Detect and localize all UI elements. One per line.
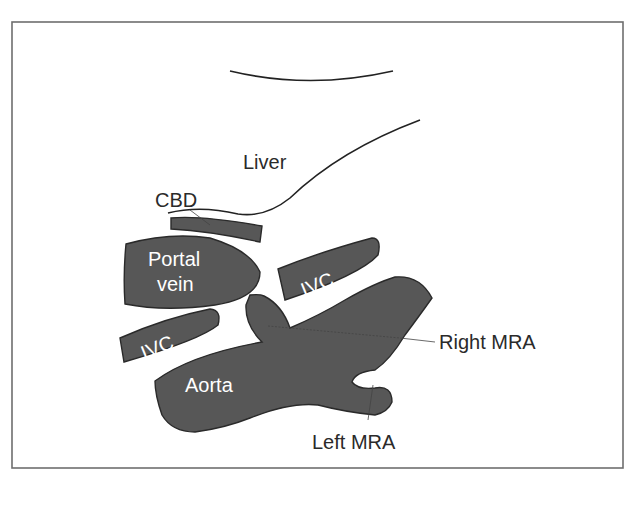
right-mra-leader-line [400, 338, 435, 342]
label-right-mra: Right MRA [439, 331, 536, 353]
liver-top-contour [230, 71, 393, 81]
label-portal-vein-line2: vein [157, 273, 194, 295]
label-portal-vein-line1: Portal [148, 248, 200, 270]
liver-lower-contour [168, 120, 420, 215]
anatomy-diagram: Liver CBD Portal vein IVC IVC Aorta Righ… [0, 0, 638, 524]
label-aorta: Aorta [185, 374, 234, 396]
label-cbd: CBD [155, 189, 197, 211]
label-liver: Liver [243, 151, 287, 173]
label-left-mra: Left MRA [312, 431, 396, 453]
